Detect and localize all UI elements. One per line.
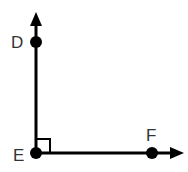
label-d: D xyxy=(11,34,23,51)
point-e xyxy=(30,147,42,159)
point-d xyxy=(30,36,42,48)
arrowhead-right-icon xyxy=(170,147,184,159)
angle-figure xyxy=(0,0,188,172)
point-f xyxy=(146,147,158,159)
geometry-diagram: D E F xyxy=(0,0,188,172)
arrowhead-up-icon xyxy=(30,12,42,26)
label-f: F xyxy=(146,127,156,144)
label-e: E xyxy=(13,147,24,164)
